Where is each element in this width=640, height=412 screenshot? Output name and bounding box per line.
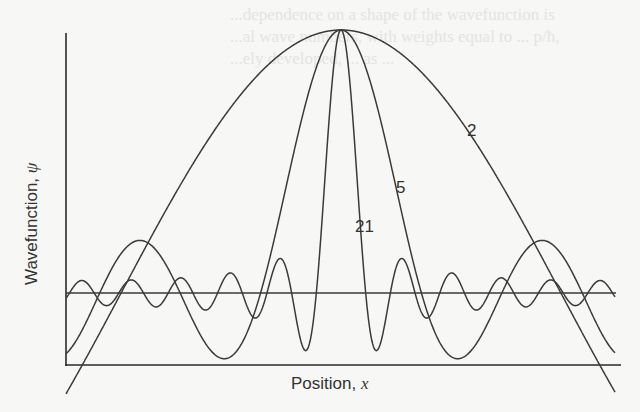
label-n2: 2 — [467, 121, 476, 141]
label-n21: 21 — [355, 217, 374, 237]
y-axis-label: Wavefunction, ψ — [22, 163, 42, 285]
curve-n5 — [66, 30, 615, 359]
plot-area — [0, 0, 640, 412]
label-n5: 5 — [396, 178, 405, 198]
curve-n21 — [66, 30, 615, 351]
curve-n2 — [66, 30, 615, 394]
x-axis-label: Position, x — [291, 374, 368, 394]
